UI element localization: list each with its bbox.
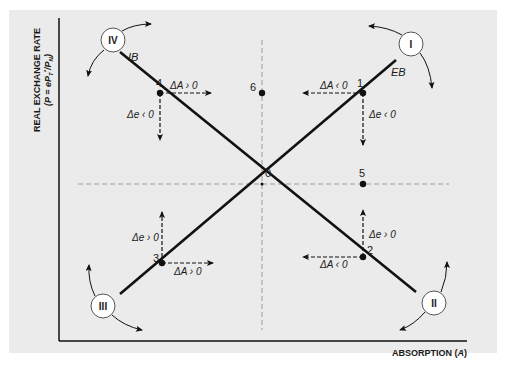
point-2-label: 2 <box>367 244 373 256</box>
zone-ii-arrow-up <box>441 262 447 292</box>
p2-exchange-label: Δe › 0 <box>368 229 396 240</box>
x-axis-label: ABSORPTION (A) <box>392 348 467 358</box>
point-0 <box>261 183 264 186</box>
zone-ii-arrow-left <box>400 312 425 330</box>
swan-diagram: REAL EXCHANGE RATE (P = ePT*/PN) ABSORPT… <box>0 0 507 370</box>
zone-iv-arrow-down <box>88 50 104 76</box>
svg-text:IV: IV <box>108 35 118 46</box>
p1-absorption-label: ΔA ‹ 0 <box>319 80 348 91</box>
point-4-label: 4 <box>156 77 162 89</box>
svg-text:I: I <box>410 39 413 50</box>
p4-absorption-label: ΔA › 0 <box>169 80 198 91</box>
point-1-label: 1 <box>357 77 363 89</box>
point-3-label: 3 <box>153 252 159 264</box>
point-1 <box>360 90 366 96</box>
svg-text:(P = ePT*/PN): (P = ePT*/PN) <box>43 54 54 106</box>
y-axis-label: REAL EXCHANGE RATE <box>32 28 42 132</box>
zone-iii-arrow-right <box>112 315 142 330</box>
point-6-label: 6 <box>250 81 256 93</box>
point-5-label: 5 <box>359 167 365 179</box>
point-2 <box>360 254 366 260</box>
svg-text:II: II <box>431 298 437 309</box>
svg-text:REAL EXCHANGE RATE: REAL EXCHANGE RATE <box>32 28 42 132</box>
point-5 <box>360 181 366 187</box>
p3-exchange-label: Δe › 0 <box>131 232 159 243</box>
y-axis-formula: (P = ePT*/PN) <box>43 54 54 106</box>
svg-text:III: III <box>99 301 108 312</box>
point-6 <box>259 90 265 96</box>
point-4 <box>157 90 163 96</box>
zone-i-arrow-down <box>420 53 432 88</box>
ib-curve-label: IB <box>128 51 138 63</box>
zone-iv-arrow-right <box>122 24 151 31</box>
p2-absorption-label: ΔA ‹ 0 <box>319 259 348 270</box>
zone-iii-badge: III <box>91 294 115 318</box>
zone-i-arrow-left <box>369 26 402 35</box>
p3-absorption-label: ΔA › 0 <box>173 266 202 277</box>
eb-curve-label: EB <box>391 66 406 78</box>
p1-exchange-label: Δe ‹ 0 <box>368 109 396 120</box>
zone-iv-badge: IV <box>101 28 125 52</box>
point-3 <box>159 260 165 266</box>
zone-ii-badge: II <box>422 291 446 315</box>
point-0-label: 0 <box>265 167 271 179</box>
zone-i-badge: I <box>399 32 423 56</box>
zone-iii-arrow-up <box>89 265 95 296</box>
p4-exchange-label: Δe ‹ 0 <box>126 109 154 120</box>
